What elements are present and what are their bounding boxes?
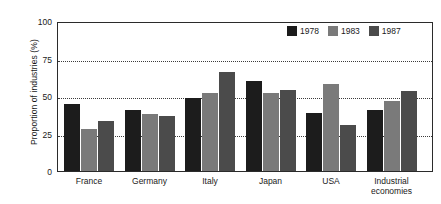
bar-germany-1978 xyxy=(125,110,141,171)
bar-italy-1987 xyxy=(219,72,235,171)
legend-entry-1987: 1987 xyxy=(369,26,401,36)
legend-swatch-icon xyxy=(287,26,297,36)
x-axis-label-industrial-economies: Industrialeconomies xyxy=(349,176,435,196)
bar-japan-1983 xyxy=(263,93,279,171)
bar-germany-1983 xyxy=(142,114,158,171)
y-tick-label-25: 25 xyxy=(22,130,52,140)
legend-label: 1987 xyxy=(382,26,401,36)
bar-usa-1987 xyxy=(340,125,356,171)
bar-industrial-economies-1978 xyxy=(367,110,383,171)
bar-germany-1987 xyxy=(159,116,175,171)
bar-industrial-economies-1983 xyxy=(384,101,400,171)
bars-layer xyxy=(58,23,432,171)
bar-chart: Proportion of industries (%) 0 25 50 75 … xyxy=(0,0,441,204)
bar-usa-1978 xyxy=(306,113,322,171)
bar-france-1987 xyxy=(98,121,114,171)
x-axis-label-line: economies xyxy=(349,186,435,196)
y-tick-label-75: 75 xyxy=(22,55,52,65)
legend-label: 1978 xyxy=(300,26,319,36)
legend-swatch-icon xyxy=(328,26,338,36)
x-axis-label-line: Industrial xyxy=(349,176,435,186)
y-tick-label-50: 50 xyxy=(22,92,52,102)
legend-swatch-icon xyxy=(369,26,379,36)
bar-italy-1983 xyxy=(202,93,218,171)
legend-entry-1978: 1978 xyxy=(287,26,319,36)
legend-entry-1983: 1983 xyxy=(328,26,360,36)
bar-japan-1987 xyxy=(280,90,296,171)
y-tick-label-100: 100 xyxy=(22,17,52,27)
bar-industrial-economies-1987 xyxy=(401,91,417,171)
bar-france-1983 xyxy=(81,129,97,171)
bar-usa-1983 xyxy=(323,84,339,171)
bar-france-1978 xyxy=(64,104,80,171)
bar-italy-1978 xyxy=(185,98,201,171)
legend-label: 1983 xyxy=(341,26,360,36)
bar-japan-1978 xyxy=(246,81,262,171)
chart-legend: 197819831987 xyxy=(287,26,401,36)
